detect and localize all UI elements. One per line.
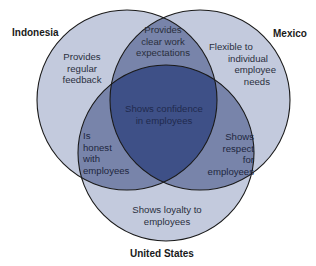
region-us-only: Shows loyalty to employees <box>122 204 212 227</box>
region-text: employees <box>196 166 254 178</box>
region-text: Shows confidence <box>114 103 214 115</box>
region-indonesia-us: Is honest with employees <box>83 130 143 176</box>
region-mexico-us: Shows respect for employees <box>196 131 254 177</box>
region-text: Is <box>83 130 143 142</box>
region-text: expectations <box>128 47 198 59</box>
region-text: employees <box>122 216 212 228</box>
set-label-united-states: United States <box>130 248 194 259</box>
region-text: Flexible to <box>208 41 280 53</box>
region-text: Provides <box>128 24 198 36</box>
set-label-indonesia: Indonesia <box>12 27 59 38</box>
region-text: honest <box>83 142 143 154</box>
region-indonesia-mexico: Provides clear work expectations <box>128 24 198 59</box>
region-text: individual <box>208 53 280 65</box>
region-text: in employees <box>114 115 214 127</box>
set-label-mexico: Mexico <box>273 28 307 39</box>
region-text: needs <box>208 76 280 88</box>
region-mexico-only: Flexible to individual employee needs <box>208 41 280 87</box>
region-text: employees <box>83 165 143 177</box>
region-text: respect <box>196 143 254 155</box>
region-text: Provides <box>52 51 112 63</box>
region-text: clear work <box>128 36 198 48</box>
region-text: employee <box>208 64 280 76</box>
region-text: feedback <box>52 74 112 86</box>
region-text: regular <box>52 63 112 75</box>
region-text: with <box>83 153 143 165</box>
region-text: Shows <box>196 131 254 143</box>
region-text: Shows loyalty to <box>122 204 212 216</box>
region-all-three: Shows confidence in employees <box>114 103 214 126</box>
region-text: for <box>196 154 254 166</box>
region-indonesia-only: Provides regular feedback <box>52 51 112 86</box>
